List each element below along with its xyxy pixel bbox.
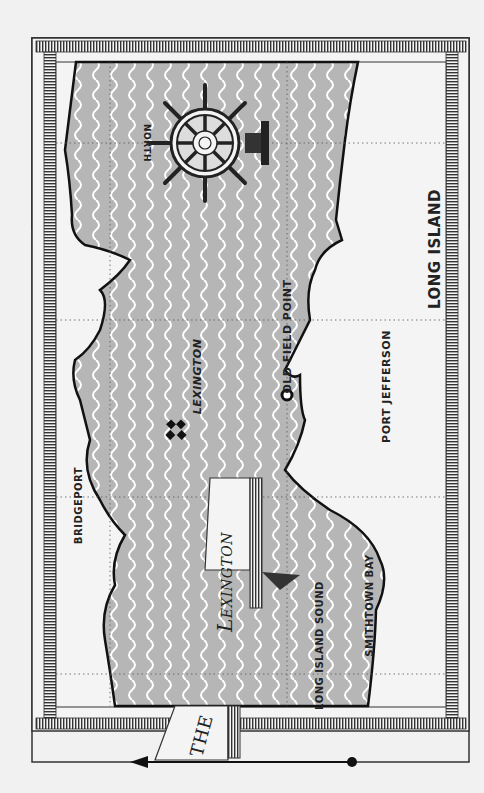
label-lexington-wreck: LEXINGTON	[191, 339, 204, 415]
map-canvas	[0, 0, 484, 793]
label-old-field-point: OLD FIELD POINT	[281, 279, 294, 393]
title-lexington: Lexington	[213, 532, 237, 632]
label-smithtown-bay: SMITHTOWN BAY	[364, 554, 375, 656]
label-port-jefferson: PORT JEFFERSON	[380, 330, 393, 443]
label-bridgeport: BRIDGEPORT	[73, 467, 84, 544]
label-north: NORTH	[142, 124, 152, 162]
label-long-island-sound: LONG ISLAND SOUND	[314, 581, 325, 710]
label-long-island: LONG ISLAND	[426, 189, 444, 309]
